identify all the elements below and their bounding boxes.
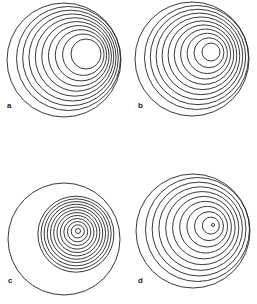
panel-label-d: d xyxy=(138,276,143,285)
panel-b-contours xyxy=(135,2,249,116)
contour-ring xyxy=(181,29,231,79)
contour-figure xyxy=(0,0,257,304)
panel-d-contours xyxy=(136,174,250,288)
contour-ring xyxy=(162,17,240,95)
panel-label-a: a xyxy=(7,101,11,110)
outer-circle xyxy=(8,183,120,295)
contour-ring xyxy=(194,38,224,68)
contour-ring xyxy=(71,39,101,69)
contour-ring xyxy=(202,217,219,234)
panel-c-contours xyxy=(8,183,120,295)
contour-ring xyxy=(156,13,243,100)
panel-a-contours xyxy=(7,3,121,117)
contour-ring xyxy=(71,225,84,238)
contour-ring xyxy=(146,178,250,282)
contour-ring xyxy=(212,224,215,227)
contour-ring xyxy=(76,229,81,234)
contour-ring xyxy=(159,187,243,271)
contour-ring xyxy=(60,216,94,250)
panel-label-c: c xyxy=(8,276,12,285)
contour-ring xyxy=(150,9,245,104)
contour-ring xyxy=(173,196,236,259)
panel-label-b: b xyxy=(138,101,143,110)
contour-ring xyxy=(152,182,246,276)
contour-ring xyxy=(35,18,113,96)
contour-ring xyxy=(202,43,220,61)
